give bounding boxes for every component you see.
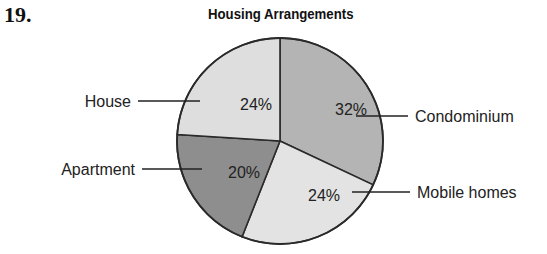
pie-slice-house xyxy=(177,38,280,141)
slice-value-label-house: 24% xyxy=(240,96,272,113)
category-label-house: House xyxy=(85,93,131,110)
pie-chart: 32%Condominium24%Mobile homes20%Apartmen… xyxy=(0,0,547,254)
slice-value-label-mobile-homes: 24% xyxy=(308,187,340,204)
slice-value-label-apartment: 20% xyxy=(228,164,260,181)
category-label-apartment: Apartment xyxy=(61,161,135,178)
category-label-mobile-homes: Mobile homes xyxy=(417,184,517,201)
category-label-condominium: Condominium xyxy=(415,108,514,125)
